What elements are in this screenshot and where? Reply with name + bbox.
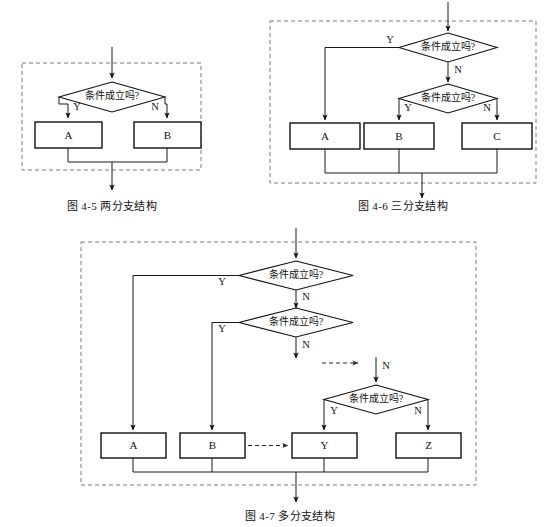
fig3-yes-branch-2 bbox=[212, 323, 239, 431]
fig3-process-b-label: B bbox=[209, 439, 216, 451]
fig1-merge-path bbox=[68, 148, 167, 162]
fig2-group-boundary bbox=[270, 21, 536, 183]
fig2-process-b-label: B bbox=[395, 130, 402, 142]
fig3-yes-branch-1 bbox=[133, 276, 239, 431]
fig1-group-boundary bbox=[22, 63, 201, 170]
fig2-process-c-label: C bbox=[493, 130, 500, 142]
fig2-no-label-2: N bbox=[483, 102, 491, 113]
fig3-merge-path bbox=[133, 458, 428, 472]
fig2-yes-branch-1 bbox=[325, 48, 399, 121]
fig2-no-label-1: N bbox=[454, 64, 462, 75]
fig1-condition-1-label: 条件成立吗? bbox=[85, 89, 140, 101]
figure-sheet: 条件成立吗? Y N A B 图 4-5 两分支结构 条件成立吗? bbox=[0, 0, 545, 527]
fig3-condition-2-label: 条件成立吗? bbox=[269, 315, 324, 327]
fig3-process-y-label: Y bbox=[321, 439, 329, 451]
fig2-condition-1-label: 条件成立吗? bbox=[421, 40, 476, 52]
fig3-caption: 图 4-7 多分支结构 bbox=[245, 509, 336, 522]
fig3-no-label-2: N bbox=[302, 339, 310, 350]
fig3-yes-label-3: Y bbox=[330, 405, 338, 416]
fig3-no-label-2b: N bbox=[382, 360, 390, 371]
fig1-yes-label: Y bbox=[73, 101, 81, 112]
figure-4-7: 条件成立吗? Y N 条件成立吗? Y N N 条件成立吗? bbox=[81, 228, 476, 522]
fig3-yes-label-1: Y bbox=[218, 276, 226, 287]
fig1-caption: 图 4-5 两分支结构 bbox=[67, 199, 158, 212]
fig1-yes-branch bbox=[59, 97, 68, 118]
fig3-yes-label-2: Y bbox=[218, 323, 226, 334]
figure-4-5: 条件成立吗? Y N A B 图 4-5 两分支结构 bbox=[22, 47, 201, 212]
fig2-condition-2-label: 条件成立吗? bbox=[421, 91, 476, 103]
fig1-no-label: N bbox=[151, 101, 159, 112]
fig1-no-branch bbox=[165, 97, 167, 118]
fig3-condition-1-label: 条件成立吗? bbox=[269, 268, 324, 280]
diagram-canvas: 条件成立吗? Y N A B 图 4-5 两分支结构 条件成立吗? bbox=[0, 0, 545, 527]
fig1-process-b-label: B bbox=[164, 129, 171, 141]
fig2-yes-label-1: Y bbox=[386, 34, 394, 45]
fig3-condition-3-label: 条件成立吗? bbox=[349, 392, 404, 404]
fig3-no-label-3: N bbox=[414, 405, 422, 416]
figure-4-6: 条件成立吗? Y N 条件成立吗? Y N A B C bbox=[270, 2, 536, 212]
fig2-merge-path bbox=[325, 149, 497, 173]
fig2-caption: 图 4-6 三分支结构 bbox=[358, 199, 449, 212]
fig3-process-a-label: A bbox=[130, 439, 138, 451]
fig1-process-a-label: A bbox=[65, 129, 73, 141]
fig2-process-a-label: A bbox=[321, 130, 329, 142]
fig3-process-z-label: Z bbox=[425, 439, 432, 451]
fig3-no-label-1: N bbox=[302, 291, 310, 302]
fig2-yes-label-2: Y bbox=[404, 102, 412, 113]
